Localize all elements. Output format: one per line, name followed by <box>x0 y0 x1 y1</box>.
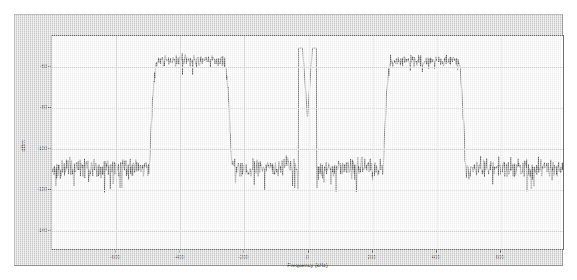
y-gridline <box>52 231 563 232</box>
x-tick-label: 0 <box>306 255 309 260</box>
y-gridline <box>52 149 563 150</box>
x-tick-mark <box>372 250 373 253</box>
x-tick-label: 400 <box>432 255 440 260</box>
plot-axes <box>51 35 564 250</box>
y-tick-label: -100 <box>29 145 47 150</box>
x-tick-label: -400 <box>174 255 184 260</box>
x-tick-mark <box>179 250 180 253</box>
y-gridline <box>52 108 563 109</box>
y-tick-label: -140 <box>29 227 47 232</box>
x-tick-mark <box>500 250 501 253</box>
x-gridline <box>437 36 438 249</box>
y-tick-mark <box>48 189 51 190</box>
x-tick-mark <box>243 250 244 253</box>
figure-panel: dBm Frequency (kHz) -600-400-20002004006… <box>14 14 563 266</box>
x-gridline <box>244 36 245 249</box>
x-gridline <box>180 36 181 249</box>
x-tick-mark <box>115 250 116 253</box>
x-tick-label: -600 <box>110 255 120 260</box>
spectrum-trace <box>52 36 563 249</box>
x-gridline <box>309 36 310 249</box>
x-gridline <box>373 36 374 249</box>
y-tick-mark <box>48 107 51 108</box>
y-tick-mark <box>48 66 51 67</box>
y-tick-label: -60 <box>29 63 47 68</box>
y-axis-label: dBm <box>21 140 27 151</box>
x-gridline <box>116 36 117 249</box>
x-tick-label: 600 <box>496 255 504 260</box>
y-tick-mark <box>48 148 51 149</box>
x-tick-mark <box>436 250 437 253</box>
y-gridline <box>52 190 563 191</box>
y-tick-mark <box>48 230 51 231</box>
x-axis-label: Frequency (kHz) <box>287 263 328 269</box>
spectrum-line <box>52 48 563 192</box>
x-tick-label: 200 <box>367 255 375 260</box>
x-tick-mark <box>308 250 309 253</box>
y-gridline <box>52 67 563 68</box>
screenshot-root: dBm Frequency (kHz) -600-400-20002004006… <box>0 0 577 280</box>
x-tick-label: -200 <box>238 255 248 260</box>
y-tick-label: -120 <box>29 186 47 191</box>
y-tick-label: -80 <box>29 104 47 109</box>
x-gridline <box>501 36 502 249</box>
